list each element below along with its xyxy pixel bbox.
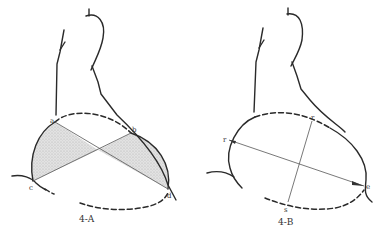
outline-bottom-left xyxy=(207,172,234,177)
ellipse-dashed-bottom xyxy=(80,193,168,210)
shaded-region-right xyxy=(98,133,169,189)
long-axis-arrow-left xyxy=(229,140,236,144)
ellipse-dashed-bottom-left xyxy=(45,189,54,194)
figure-caption-4a: 4-A xyxy=(79,214,95,224)
point-label-a: a xyxy=(50,117,54,125)
ellipse-arc-left xyxy=(229,117,255,188)
outline-head-curve xyxy=(287,14,302,66)
point-label-c: c xyxy=(29,184,33,192)
point-label-d: d xyxy=(167,192,172,200)
point-label-s-bottom: s xyxy=(284,206,288,214)
point-label-e-right: e xyxy=(366,183,370,191)
long-axis-line xyxy=(229,140,364,186)
ellipse-dashed-bottom xyxy=(265,190,364,209)
point-label-r-left: r xyxy=(223,136,227,144)
point-label-r-top: r xyxy=(311,114,315,122)
outline-left-line xyxy=(56,30,64,115)
figure-4b: r r s e 4-B xyxy=(207,8,372,227)
outline-left-line xyxy=(254,28,263,112)
shaded-region-left xyxy=(32,122,98,181)
point-label-b: b xyxy=(132,126,137,134)
figure-4a: a b c d 4-A xyxy=(12,9,176,224)
diagram-canvas: a b c d 4-A r r s e 4-B xyxy=(0,0,382,229)
outline-head-curve xyxy=(86,15,104,70)
ellipse-dashed-top xyxy=(255,113,330,128)
figure-caption-4b: 4-B xyxy=(278,217,294,227)
